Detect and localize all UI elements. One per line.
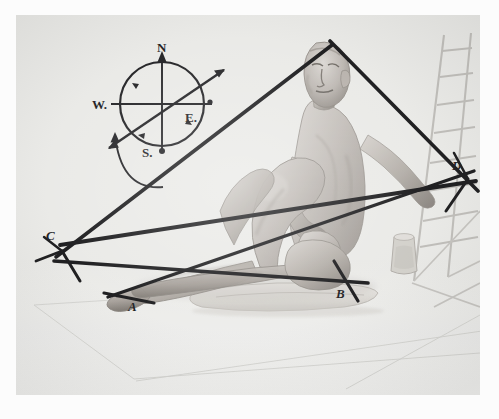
line-C-to-B bbox=[54, 261, 368, 283]
vertex-label-A: A bbox=[127, 299, 137, 314]
plate-root: N W. E. S. bbox=[0, 0, 499, 419]
tick-at-C-3 bbox=[62, 251, 80, 281]
artwork-area: N W. E. S. bbox=[16, 15, 480, 395]
vertex-label-C: C bbox=[46, 228, 55, 243]
vertex-label-B: B bbox=[335, 286, 345, 301]
vertex-label-D: D bbox=[451, 158, 462, 173]
construction-lines-layer: A B C D bbox=[16, 15, 480, 395]
